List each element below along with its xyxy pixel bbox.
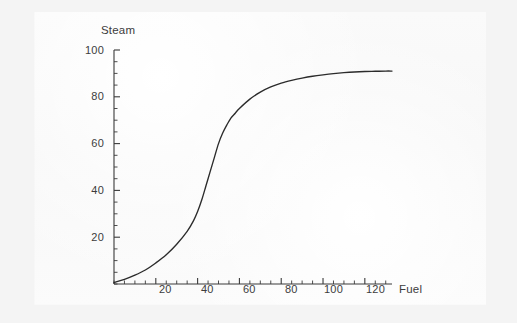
y-tick-marks <box>114 50 120 284</box>
chart-canvas <box>0 0 517 323</box>
x-tick-marks <box>114 278 386 284</box>
data-series-line <box>114 71 392 283</box>
axes-group <box>114 50 392 284</box>
figure-page: Steam Fuel 100 80 60 40 20 20 40 60 80 1… <box>0 0 517 323</box>
